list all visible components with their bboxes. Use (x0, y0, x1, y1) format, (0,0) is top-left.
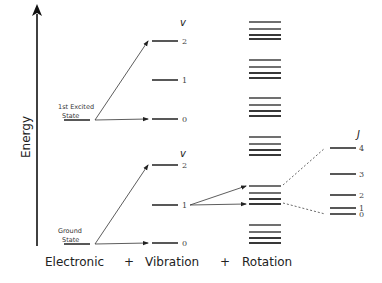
electronic-state: GroundState (58, 227, 90, 244)
vibration-level-number: 1 (182, 76, 187, 85)
vibration-level-number: 2 (182, 37, 187, 46)
bottom-label: Rotation (242, 255, 292, 269)
vibration-level-number: 1 (182, 201, 187, 210)
electronic-states: 1st ExcitedStateGroundState (58, 103, 94, 244)
vibration-level-number: 2 (182, 161, 187, 170)
arrow-icon (95, 243, 148, 244)
rotation-stack (249, 98, 281, 116)
state-label-line2: State (62, 112, 79, 120)
vibration-level-number: 0 (182, 239, 187, 248)
vibration-levels: v210v210 (152, 17, 187, 248)
vibration-group: v210 (152, 17, 187, 124)
arrow-icon (190, 204, 246, 205)
vibration-group: v210 (152, 148, 187, 248)
arrow-icon (95, 119, 148, 120)
electronic-state: 1st ExcitedState (58, 103, 94, 120)
rotation-stack (249, 186, 281, 204)
j-level-number: 4 (359, 144, 364, 153)
transition-arrows (95, 41, 246, 244)
bottom-labels: Electronic+Vibration+Rotation (45, 255, 292, 269)
dashed-connector (283, 148, 325, 185)
arrow-icon (95, 41, 148, 120)
bottom-label: + (124, 255, 134, 269)
state-label-line1: 1st Excited (58, 103, 94, 111)
rotation-symbol: J (355, 129, 360, 140)
vibration-level-number: 0 (182, 115, 187, 124)
arrow-icon (95, 165, 148, 244)
dashed-connector (283, 203, 325, 214)
bottom-label: Electronic (45, 255, 104, 269)
rotation-stack (249, 22, 281, 39)
bottom-label: Vibration (145, 255, 199, 269)
energy-level-diagram: Energy 1st ExcitedStateGroundState v210v… (0, 0, 382, 283)
energy-axis: Energy (19, 14, 37, 246)
j-level-number: 0 (359, 210, 364, 219)
vibration-symbol: v (180, 148, 187, 159)
rotation-levels (249, 22, 281, 243)
bottom-label: + (220, 255, 230, 269)
vibration-symbol: v (180, 17, 187, 28)
j-level-number: 3 (359, 170, 364, 179)
arrow-icon (190, 186, 246, 205)
rotation-stack (249, 60, 281, 78)
rotational-detail: J43210 (283, 129, 364, 219)
rotation-stack (249, 137, 281, 155)
rotation-stack (249, 225, 281, 243)
state-label-line2: State (62, 236, 79, 244)
state-label-line1: Ground (58, 227, 82, 235)
j-level-number: 2 (359, 191, 364, 200)
energy-axis-label: Energy (19, 116, 33, 158)
